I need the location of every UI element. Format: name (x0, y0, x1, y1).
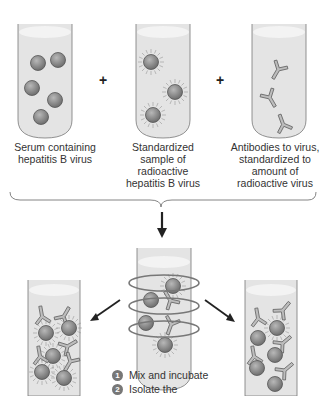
label-serum: Serum containing hepatitis B virus (0, 141, 110, 165)
label-radioactive: Standardized sample of radioactive hepat… (118, 141, 208, 189)
step-number-badge: 2 (112, 384, 123, 395)
label-antibodies: Antibodies to virus, standardized to amo… (228, 141, 322, 189)
radioimmunoassay-diagram: + + (0, 0, 322, 396)
step-number-badge: 1 (112, 370, 123, 381)
tube-radioactive (136, 24, 190, 138)
step-1: 1 Mix and incubate (112, 369, 208, 381)
step-text: Isolate the (129, 383, 177, 395)
tube-antibodies (252, 24, 306, 138)
step-2: 2 Isolate the (112, 383, 177, 395)
plus-operator: + (216, 72, 224, 88)
tube-result-left (28, 280, 82, 396)
tube-result-right (244, 280, 297, 396)
plus-operator: + (99, 72, 107, 88)
grouping-brace (10, 192, 316, 207)
tube-serum (18, 24, 72, 138)
step-text: Mix and incubate (129, 369, 208, 381)
